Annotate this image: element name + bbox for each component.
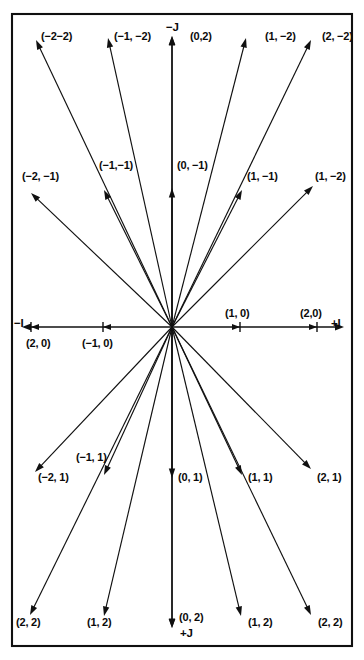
ray-label-r-top-5: (2, −2) <box>322 31 353 42</box>
ray-arrowhead-r-bot-4 <box>236 606 242 616</box>
ray-arrowhead-r-top-2 <box>107 38 113 48</box>
ray-arrowhead-r-bot-1 <box>30 605 37 615</box>
ray-label-r-top-2: (−1, −2) <box>114 31 151 42</box>
ray-label-r-top-4: (1, −2) <box>265 31 296 42</box>
ray-label-r-mid-dn-2: (−1, 1) <box>76 452 107 463</box>
axis-tick-arrow-tick-pos-i-1 <box>232 324 240 330</box>
axis-arrow-negative-j <box>169 36 176 45</box>
diagram-frame <box>12 14 352 646</box>
axis-tick-arrow-tick-neg-i-2 <box>31 324 39 330</box>
ray-label-r-bot-4: (1, 2) <box>248 617 272 628</box>
axis-tick-label-tick-neg-i-1: (−1, 0) <box>82 338 113 349</box>
ray-line-r-top-2 <box>110 45 172 327</box>
ray-label-r-mid-dn-5: (2, 1) <box>317 472 341 483</box>
ray-label-r-mid-dn-1: (−2, 1) <box>38 472 69 483</box>
ray-label-r-bot-1: (2, 2) <box>16 617 40 628</box>
ray-arrowhead-r-bot-2 <box>103 606 109 616</box>
ray-label-r-bot-3: (0, 2) <box>179 612 203 623</box>
ray-line-r-top-1 <box>39 47 172 327</box>
ray-arrowhead-r-mid-dn-2 <box>104 465 111 475</box>
ray-label-r-mid-up-5: (1, −2) <box>315 171 346 182</box>
axis-tick-label-tick-pos-i-2: (2,0) <box>300 308 322 319</box>
ray-line-r-mid-up-2 <box>107 197 172 327</box>
ray-line-r-mid-up-1 <box>36 198 172 327</box>
axis-tick-label-tick-neg-i-2: (2, 0) <box>26 338 50 349</box>
ray-label-r-bot-2: (1, 2) <box>87 617 111 628</box>
ray-arrowhead-r-top-5 <box>304 40 311 50</box>
ray-line-r-mid-dn-2 <box>107 327 172 468</box>
ray-label-r-mid-up-3: (0, −1) <box>177 160 208 171</box>
ray-label-r-mid-up-2: (−1,−1) <box>99 160 133 171</box>
axis-label-negative-j: −J <box>166 22 179 34</box>
axis-label-positive-i: +I <box>331 318 341 330</box>
axis-tick-arrow-tick-neg-i-1 <box>103 324 111 330</box>
ray-arrowhead-r-bot-5 <box>304 605 311 615</box>
ray-label-r-top-1: (−2−2) <box>41 31 72 42</box>
axis-label-negative-i: −I <box>14 318 24 330</box>
ray-line-r-mid-dn-5 <box>172 327 306 464</box>
ray-line-r-bot-2 <box>106 327 172 609</box>
axis-tick-arrow-tick-pos-i-2 <box>309 324 317 330</box>
axis-arrow-positive-j <box>169 619 176 628</box>
ray-label-r-mid-dn-3: (0, 1) <box>178 472 202 483</box>
ray-line-r-bot-5 <box>172 327 308 608</box>
axis-label-positive-j: +J <box>180 628 193 640</box>
ray-line-r-top-5 <box>172 47 308 327</box>
ray-line-r-bot-4 <box>172 327 239 609</box>
ray-line-r-bot-1 <box>33 327 172 608</box>
ray-label-r-top-3: (0,2) <box>190 31 212 42</box>
ray-label-r-bot-5: (2, 2) <box>318 617 342 628</box>
diagram-canvas <box>0 0 364 660</box>
axes-group <box>22 36 344 628</box>
ray-label-r-mid-up-4: (1, −1) <box>247 171 278 182</box>
vector-direction-diagram: (−2−2)(−1, −2)(0,2)(1, −2)(2, −2)(−2, −1… <box>0 0 364 660</box>
ray-label-r-mid-dn-4: (1, 1) <box>248 472 272 483</box>
axis-tick-label-tick-pos-i-1: (1, 0) <box>225 308 249 319</box>
ray-line-r-top-4 <box>172 45 244 327</box>
ray-arrowhead-r-top-4 <box>241 38 247 48</box>
ray-label-r-mid-up-1: (−2, −1) <box>22 171 59 182</box>
